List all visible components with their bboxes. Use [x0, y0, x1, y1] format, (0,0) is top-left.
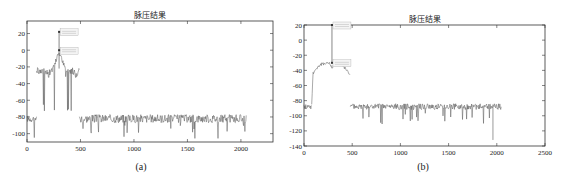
x-tick-label: 1500 — [180, 145, 195, 153]
x-tick-label: 1000 — [127, 145, 142, 153]
y-tick-label: -100 — [12, 130, 25, 138]
caption-a: (a) — [0, 161, 282, 172]
chart-panel-b: 脉压结果200-20-40-60-80-100-120-140050010001… — [282, 0, 564, 183]
x-tick-label: 1000 — [393, 149, 408, 157]
y-tick-label: -60 — [293, 82, 303, 90]
y-tick-label: -100 — [289, 112, 302, 120]
y-tick-label: -80 — [16, 113, 26, 121]
signal-trace — [304, 25, 501, 140]
y-tick-label: 20 — [295, 22, 303, 30]
x-tick-label: 500 — [75, 145, 86, 153]
data-tip-marker-icon — [331, 24, 333, 26]
y-tick-label: -60 — [16, 97, 26, 105]
y-tick-label: -80 — [293, 97, 303, 105]
data-tip[interactable] — [331, 22, 351, 29]
data-tip[interactable] — [58, 47, 78, 54]
data-tip[interactable] — [58, 29, 78, 36]
x-tick-label: 0 — [302, 149, 306, 157]
x-tick-label: 0 — [25, 145, 29, 153]
x-tick-label: 1500 — [442, 149, 457, 157]
y-tick-label: -40 — [293, 67, 303, 75]
y-tick-label: -120 — [289, 127, 302, 135]
chart-panel-a: 脉压结果200-20-40-60-80-1000500100015002000 … — [0, 0, 282, 183]
signal-trace — [27, 32, 246, 139]
plot-b: 脉压结果200-20-40-60-80-100-120-140050010001… — [282, 0, 564, 160]
y-tick-label: -20 — [293, 52, 303, 60]
plot-a: 脉压结果200-20-40-60-80-1000500100015002000 — [0, 0, 282, 160]
data-tip-marker-icon — [58, 49, 60, 51]
x-tick-label: 2000 — [490, 149, 505, 157]
data-tip-marker-icon — [331, 62, 333, 64]
caption-b: (b) — [282, 161, 564, 172]
chart-title: 脉压结果 — [134, 10, 166, 20]
x-tick-label: 2500 — [538, 149, 553, 157]
data-tip-marker-icon — [58, 31, 60, 33]
plot-frame — [27, 21, 273, 142]
plot-frame — [304, 25, 545, 146]
y-tick-label: 20 — [18, 30, 26, 38]
x-tick-label: 2000 — [234, 145, 249, 153]
chart-title: 脉压结果 — [409, 14, 441, 24]
y-tick-label: -140 — [289, 143, 302, 151]
y-tick-label: 0 — [299, 37, 303, 45]
x-tick-label: 500 — [347, 149, 358, 157]
y-tick-label: -40 — [16, 80, 26, 88]
y-tick-label: -20 — [16, 63, 26, 71]
data-tip[interactable] — [331, 60, 351, 67]
y-tick-label: 0 — [22, 47, 26, 55]
